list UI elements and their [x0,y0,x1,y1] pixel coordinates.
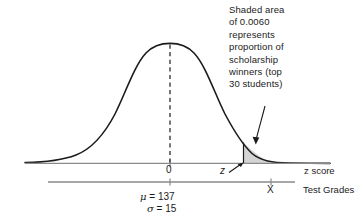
annotation-line-2: of 0.0060 [229,16,331,28]
z-axis-zero-label: 0 [166,164,172,175]
annotation-leader-line [257,106,266,138]
shaded-area-annotation: Shaded area of 0.0060 represents proport… [229,4,331,91]
annotation-line-3: represents [229,29,331,41]
z-cutoff-label: z [220,165,225,176]
sd-parameter: σ = 15 [147,203,176,214]
annotation-line-4: proportion of [229,41,331,53]
z-axis-label: z score [304,165,335,176]
mean-parameter: μ = 137 [140,191,175,202]
annotation-line-6: winners (top [229,66,331,78]
sigma-symbol: σ [147,203,154,214]
annotation-line-7: 30 students) [229,78,331,90]
grades-cutoff-label: X [267,184,274,195]
normal-distribution-figure: Shaded area of 0.0060 represents proport… [0,0,361,222]
annotation-leader-arrowhead [253,137,260,145]
annotation-line-5: scholarship [229,54,331,66]
sd-value: = 15 [154,203,177,214]
annotation-line-1: Shaded area [229,4,331,16]
mean-value: = 137 [147,191,175,202]
grades-axis-label: Test Grades [303,184,354,195]
